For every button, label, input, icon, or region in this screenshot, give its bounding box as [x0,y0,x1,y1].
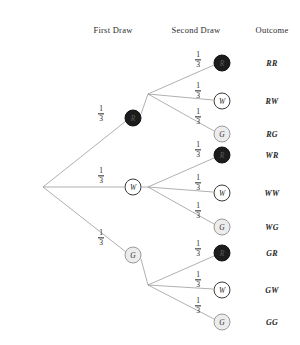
second-draw-node-g-2[interactable]: G [214,126,231,143]
outcome-label-rw: RW [266,97,279,106]
second-draw-probability-0: 13 [195,51,201,68]
second-draw-probability-6: 13 [195,240,201,257]
fraction-numerator: 1 [98,105,104,113]
fraction-numerator: 1 [195,271,201,279]
fraction-numerator: 1 [195,141,201,149]
tree-edge-layer [0,0,300,345]
outcome-label-wr: WR [265,151,278,160]
outcome-label-ww: WW [265,189,280,198]
node-letter: G [219,318,224,327]
fraction-numerator: 1 [195,297,201,305]
edge-root-to-r [43,121,126,187]
edge-gj-to-gr [148,256,214,285]
fraction-numerator: 1 [195,174,201,182]
fraction-numerator: 1 [98,167,104,175]
outcome-label-wg: WG [265,223,279,232]
edge-rj-to-rr [148,65,214,94]
first-draw-node-g-2[interactable]: G [125,247,142,264]
edge-rj-to-rg [148,94,214,131]
fraction-denominator: 3 [195,61,201,69]
node-letter: G [130,251,135,260]
first-draw-node-r-0[interactable]: R [125,110,142,127]
fraction-numerator: 1 [195,51,201,59]
second-draw-node-w-1[interactable]: W [214,93,231,110]
second-draw-probability-5: 13 [195,202,201,219]
node-letter: G [219,130,224,139]
fraction-denominator: 3 [195,92,201,100]
second-draw-probability-3: 13 [195,141,201,158]
node-letter: R [220,151,225,160]
fraction-denominator: 3 [195,250,201,258]
fraction-denominator: 3 [195,118,201,126]
edge-g-to-junction [141,259,148,285]
fraction-denominator: 3 [98,177,104,185]
fraction-numerator: 1 [98,229,104,237]
fraction-denominator: 3 [195,184,201,192]
fraction-denominator: 3 [195,212,201,220]
first-draw-probability-0: 13 [98,105,104,122]
edge-gj-to-gw [148,285,213,289]
fraction-denominator: 3 [195,307,201,315]
second-draw-node-g-5[interactable]: G [214,219,231,236]
node-letter: W [219,189,225,198]
second-draw-node-w-7[interactable]: W [214,282,231,299]
fraction-denominator: 3 [195,281,201,289]
edge-gj-to-gg [148,285,214,319]
node-letter: R [220,59,225,68]
fraction-denominator: 3 [98,115,104,123]
node-letter: R [131,114,136,123]
fraction-numerator: 1 [195,108,201,116]
node-letter: W [219,286,225,295]
edge-wj-to-wr [148,158,214,187]
second-draw-probability-7: 13 [195,271,201,288]
second-draw-node-r-3[interactable]: R [214,147,231,164]
node-letter: W [219,97,225,106]
edge-root-to-g [43,187,126,252]
outcome-label-gg: GG [266,318,278,327]
fraction-denominator: 3 [195,151,201,159]
first-draw-probability-1: 13 [98,167,104,184]
edge-wj-to-ww [148,187,213,192]
outcome-label-gw: GW [265,286,279,295]
second-draw-probability-4: 13 [195,174,201,191]
edge-r-to-junction [141,94,148,114]
node-letter: W [130,183,136,192]
node-letter: R [220,249,225,258]
fraction-numerator: 1 [195,240,201,248]
outcome-label-rr: RR [266,59,277,68]
node-letter: G [219,223,224,232]
fraction-numerator: 1 [195,202,201,210]
outcome-label-rg: RG [266,130,278,139]
outcome-label-gr: GR [266,249,278,258]
first-draw-probability-2: 13 [98,229,104,246]
second-draw-probability-2: 13 [195,108,201,125]
fraction-numerator: 1 [195,82,201,90]
second-draw-node-r-6[interactable]: R [214,245,231,262]
second-draw-probability-8: 13 [195,297,201,314]
fraction-denominator: 3 [98,239,104,247]
first-draw-node-w-1[interactable]: W [125,179,142,196]
edge-wj-to-wg [148,187,214,224]
probability-tree-diagram: First Draw Second Draw Outcome RWGRWGRWG… [0,0,300,345]
second-draw-node-g-8[interactable]: G [214,314,231,331]
second-draw-node-r-0[interactable]: R [214,55,231,72]
second-draw-node-w-4[interactable]: W [214,185,231,202]
second-draw-probability-1: 13 [195,82,201,99]
